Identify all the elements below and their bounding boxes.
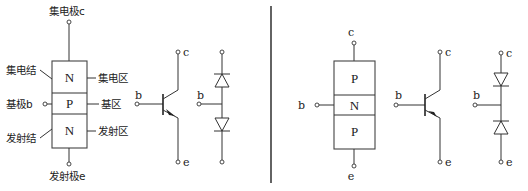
pnp-symbol-collector-label: c	[445, 46, 451, 59]
pnp-diode-base-terminal-icon	[473, 103, 477, 107]
transistor-diagram: 集电极c N P N 发射极e 基极b 集电结 发射结 集电区 基区 发射区 b	[0, 0, 528, 191]
npn-symbol-collector-terminal-icon	[176, 50, 180, 54]
emitter-terminal-label: 发射极e	[49, 170, 85, 182]
npn-symbol-base-label: b	[135, 89, 142, 102]
base-region-label: 基区	[101, 98, 121, 110]
npn-diode-base-label: b	[197, 89, 204, 102]
npn-diode-bottom-terminal-icon	[220, 160, 224, 164]
layer-n-bottom: N	[65, 123, 75, 138]
pnp-collector-terminal-icon	[352, 41, 356, 45]
pnp-base-label: b	[298, 99, 305, 112]
pnp-symbol-emitter-lead	[425, 110, 440, 160]
pnp-diode-base-label: b	[473, 89, 480, 102]
emitter-region-label: 发射区	[98, 125, 128, 137]
npn-diode-base-terminal-icon	[197, 102, 201, 106]
pnp-base-terminal-icon	[315, 103, 319, 107]
npn-bottom-diode-icon	[215, 118, 229, 131]
base-terminal-label: 基极b	[6, 98, 33, 110]
pnp-emitter-label: e	[348, 170, 355, 183]
layer-p-bottom: P	[351, 124, 358, 139]
npn-symbol-emitter-label: e	[183, 156, 190, 169]
collector-terminal-label: 集电极c	[49, 5, 85, 17]
npn-symbol-collector-label: c	[183, 46, 189, 59]
pnp-diode-collector-label: c	[506, 47, 512, 60]
collector-junction-pointer	[40, 70, 52, 79]
emitter-terminal-icon	[67, 162, 71, 166]
layer-n: N	[350, 98, 360, 113]
collector-terminal-icon	[67, 20, 71, 24]
npn-top-diode-icon	[215, 74, 229, 87]
pnp-emitter-terminal-icon	[352, 164, 356, 168]
emitter-junction-label: 发射结	[6, 132, 36, 144]
pnp-transistor-symbol: b c e	[394, 46, 452, 169]
layer-n-top: N	[65, 70, 75, 85]
npn-symbol-collector-lead	[163, 54, 178, 99]
npn-transistor-symbol: b c e	[135, 46, 190, 169]
collector-region-label: 集电区	[98, 72, 128, 84]
emitter-junction-pointer	[40, 129, 52, 138]
pnp-diode-equivalent: c b e	[473, 47, 513, 169]
pnp-symbol-collector-lead	[425, 54, 440, 99]
pnp-symbol-emitter-label: e	[445, 156, 452, 169]
npn-symbol-emitter-terminal-icon	[176, 160, 180, 164]
pnp-symbol-collector-terminal-icon	[438, 50, 442, 54]
npn-diode-equivalent: b	[197, 50, 230, 164]
pnp-diode-emitter-label: e	[506, 156, 513, 169]
collector-junction-label: 集电结	[6, 64, 36, 76]
pnp-bottom-diode-icon	[494, 121, 508, 134]
npn-diode-top-terminal-icon	[220, 50, 224, 54]
pnp-symbol-emitter-terminal-icon	[438, 160, 442, 164]
layer-p: P	[66, 96, 73, 111]
pnp-structure: c P N P e b	[298, 26, 375, 183]
layer-p-top: P	[351, 71, 358, 86]
pnp-symbol-base-label: b	[395, 89, 402, 102]
npn-symbol-emitter-lead	[163, 110, 178, 160]
pnp-diode-top-terminal-icon	[499, 51, 503, 55]
npn-symbol-base-terminal-icon	[135, 102, 139, 106]
pnp-diode-bottom-terminal-icon	[499, 160, 503, 164]
pnp-symbol-base-terminal-icon	[394, 103, 398, 107]
base-terminal-icon	[43, 102, 47, 106]
pnp-top-diode-icon	[494, 73, 508, 86]
npn-structure: 集电极c N P N 发射极e 基极b 集电结 发射结 集电区 基区 发射区	[6, 5, 128, 182]
pnp-collector-label: c	[348, 26, 354, 39]
